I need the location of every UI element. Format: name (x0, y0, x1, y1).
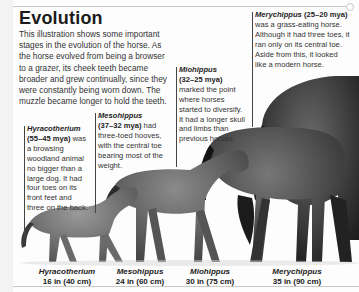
miohippus-illustration (199, 127, 345, 262)
caption-merychippus: Merychippus (25–20 mya) was a grass-eati… (252, 10, 351, 69)
caption-name: Merychippus (255, 10, 302, 19)
caption-description: was a browsing woodland animal no bigger… (27, 134, 88, 212)
caption-date: (25–20 mya) (304, 10, 347, 19)
size-label-merychippus: Merychippus 35 in (90 cm) (252, 267, 342, 287)
ground-shadow (20, 260, 359, 266)
size-label-value: 24 in (60 cm) (100, 277, 180, 287)
size-label-name: Miohippus (170, 267, 250, 277)
size-label-name: Merychippus (252, 267, 342, 277)
caption-hyracotherium: Hyracotherium (55–45 mya) was a browsing… (24, 124, 89, 213)
size-label-value: 35 in (90 cm) (252, 277, 342, 287)
caption-miohippus: Miohippus (32–25 mya) marked the point w… (176, 65, 247, 144)
size-label-value: 30 in (75 cm) (170, 277, 250, 287)
caption-date: (37–32 mya) (98, 121, 141, 130)
caption-name: Miohippus (179, 65, 217, 74)
size-label-miohippus: Miohippus 30 in (75 cm) (170, 267, 250, 287)
caption-date: (55–45 mya) (27, 134, 70, 143)
intro-paragraph: This illustration shows some important s… (19, 29, 169, 107)
size-label-hyracotherium: Hyracotherium 16 in (40 cm) (22, 267, 112, 287)
size-label-name: Hyracotherium (22, 267, 112, 277)
caption-name: Hyracotherium (27, 124, 81, 133)
page-title: Evolution (19, 8, 103, 29)
caption-description: was a grass-eating horse. Although it ha… (255, 20, 350, 69)
caption-description: marked the point where horses started to… (179, 85, 245, 144)
caption-name: Mesohippus (98, 111, 142, 120)
size-label-name: Mesohippus (100, 267, 180, 277)
caption-date: (32–25 mya) (179, 75, 222, 84)
caption-mesohippus: Mesohippus (37–32 mya) had three-toed ho… (95, 111, 164, 170)
size-label-mesohippus: Mesohippus 24 in (60 cm) (100, 267, 180, 287)
size-label-value: 16 in (40 cm) (22, 277, 112, 287)
